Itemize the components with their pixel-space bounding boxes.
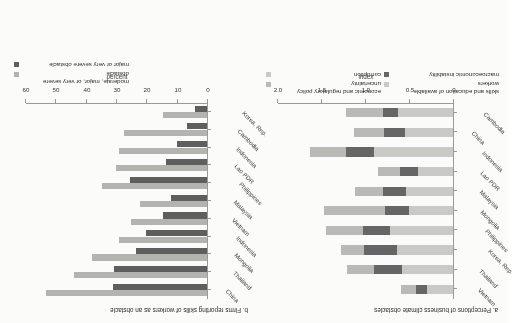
category-tick	[454, 171, 457, 172]
axis-tick	[55, 99, 56, 103]
bar-segment	[383, 108, 399, 117]
legend-swatch-icon	[384, 72, 389, 77]
category-tick	[208, 147, 211, 148]
axis-tick	[116, 99, 117, 103]
category-tick	[454, 190, 457, 191]
category-tick	[454, 269, 457, 270]
category-tick	[454, 151, 457, 152]
legend-column: major or very severe obstaclemoderate, m…	[14, 61, 129, 88]
panel-b-plot: 0102030405060percentKorea, Rep.CambodiaI…	[26, 103, 208, 299]
axis-tick	[453, 99, 454, 103]
category-tick	[208, 129, 211, 130]
bar-segment	[400, 167, 418, 176]
bar-segment	[427, 285, 453, 294]
bar	[195, 106, 207, 112]
bar-segment	[374, 265, 402, 274]
bar-row	[277, 187, 453, 196]
bar-row	[277, 167, 453, 176]
legend-item[interactable]: macroeconomic instability	[384, 71, 499, 79]
bar-segment	[347, 265, 373, 274]
axis-tick-label: 10	[174, 86, 181, 93]
bar	[146, 230, 207, 236]
legend-label: skills and education of available worker…	[392, 81, 499, 96]
bar-segment	[384, 128, 404, 137]
axis-tick	[86, 99, 87, 103]
axis-tick-label: 20	[144, 86, 151, 93]
bar-segment	[401, 285, 416, 294]
bar-segment	[418, 167, 453, 176]
bar	[92, 254, 207, 260]
category-tick	[208, 164, 211, 165]
bar	[119, 148, 207, 154]
category-tick	[454, 229, 457, 230]
bar-segment	[402, 265, 453, 274]
panel-a-plot: 00.51.01.52.0indexCambodiaChinaIndonesia…	[278, 103, 454, 299]
axis-tick	[25, 99, 26, 103]
bar	[102, 183, 207, 189]
category-tick	[208, 111, 211, 112]
panel-a-title: a. Perceptions of business climate obsta…	[374, 307, 498, 314]
category-tick	[454, 131, 457, 132]
axis-tick	[177, 99, 178, 103]
bar-segment	[346, 108, 383, 117]
bar-segment	[310, 148, 345, 157]
legend-column: corruptioneconomic and regulatory policy…	[266, 71, 381, 98]
bar	[114, 266, 207, 272]
bar-segment	[383, 187, 407, 196]
legend-item[interactable]: major or very severe obstacle	[14, 61, 129, 69]
bar-segment	[341, 246, 364, 255]
axis-tick	[277, 99, 278, 103]
legend-swatch-icon	[266, 72, 271, 77]
bar	[140, 201, 207, 207]
category-tick	[454, 249, 457, 250]
bar-row	[277, 285, 453, 294]
bar-segment	[364, 246, 397, 255]
bar-segment	[406, 187, 453, 196]
category-tick	[454, 112, 457, 113]
axis-tick	[409, 99, 410, 103]
bar-segment	[390, 226, 453, 235]
bar	[177, 141, 207, 147]
panel-b-title: b. Firms reporting skills of workers as …	[110, 307, 248, 314]
bar	[46, 290, 207, 296]
legend-swatch-icon	[14, 72, 19, 77]
legend-label: major or very severe obstacle	[22, 61, 129, 69]
axis-tick	[321, 99, 322, 103]
category-label: China	[470, 130, 486, 146]
bar	[116, 165, 207, 171]
category-tick	[208, 236, 211, 237]
legend-swatch-icon	[14, 62, 19, 67]
bar	[171, 195, 207, 201]
bar	[74, 272, 207, 278]
category-tick	[208, 218, 211, 219]
bar-segment	[324, 206, 386, 215]
category-tick	[208, 182, 211, 183]
value-axis	[26, 103, 208, 104]
bar-segment	[385, 206, 409, 215]
bar-segment	[354, 128, 385, 137]
legend-column: macroeconomic instabilityskills and educ…	[384, 71, 499, 98]
legend-item[interactable]: economic and regulatory policy uncertain…	[266, 81, 381, 96]
value-axis	[278, 103, 454, 104]
bar-segment	[326, 226, 363, 235]
category-tick	[208, 271, 211, 272]
bar-row	[277, 246, 453, 255]
bar-segment	[409, 206, 453, 215]
bar-row	[277, 128, 453, 137]
legend-item[interactable]: corruption	[266, 71, 381, 79]
category-label: Cambodia	[482, 110, 507, 135]
category-tick	[208, 200, 211, 201]
bar	[124, 130, 207, 136]
bar	[113, 284, 207, 290]
legend-label: moderate, major, or very severe obstacle	[22, 71, 129, 86]
category-tick	[208, 253, 211, 254]
legend-item[interactable]: moderate, major, or very severe obstacle	[14, 71, 129, 86]
legend-item[interactable]: skills and education of available worker…	[384, 81, 499, 96]
category-axis	[207, 103, 208, 299]
bar-segment	[374, 148, 453, 157]
axis-tick	[146, 99, 147, 103]
legend-label: economic and regulatory policy uncertain…	[274, 81, 381, 96]
axis-tick-label: 0	[206, 86, 209, 93]
category-label: China	[224, 288, 240, 304]
category-label: Malaysia	[479, 189, 501, 211]
